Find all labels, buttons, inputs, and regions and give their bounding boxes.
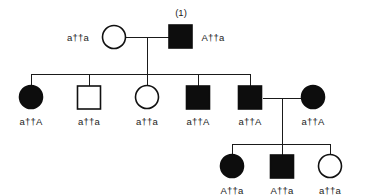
individual-II-1-circle-affected-female[interactable] xyxy=(20,86,43,109)
genotype-label-III-3: a††a xyxy=(319,186,341,196)
genotype-label-II-2: a††a xyxy=(78,117,100,127)
individual-II-6-circle-affected-female[interactable] xyxy=(302,86,325,109)
individual-II-5-square-affected-male[interactable] xyxy=(239,86,262,109)
individual-II-2-square-unaffected-male[interactable] xyxy=(78,86,101,109)
genotype-label-II-4: a††A xyxy=(187,117,210,127)
genotype-label-II-3: a††a xyxy=(136,117,158,127)
individual-II-3-circle-unaffected-female[interactable] xyxy=(136,86,159,109)
proband-id-label: (1) xyxy=(175,8,187,18)
individual-I-1-circle-unaffected-female[interactable] xyxy=(103,26,126,49)
genotype-label-I-1: a††a xyxy=(67,33,89,43)
genotype-label-III-1: A††a xyxy=(221,186,244,196)
individual-III-1-circle-affected-female[interactable] xyxy=(221,155,244,178)
pedigree-chart: (1) a††a A††a a††A a††a a††a a††A a††A a… xyxy=(0,0,366,196)
genotype-label-I-2: A††a xyxy=(202,33,225,43)
genotype-label-II-6: a††A xyxy=(302,117,325,127)
individual-III-2-square-affected-male[interactable] xyxy=(271,155,294,178)
individual-II-4-square-affected-male[interactable] xyxy=(187,86,210,109)
individual-I-2-square-affected-male[interactable] xyxy=(169,25,192,48)
genotype-label-II-5: a††A xyxy=(239,117,262,127)
individual-III-3-circle-unaffected-female[interactable] xyxy=(319,155,342,178)
pedigree-diagram-canvas xyxy=(0,0,366,196)
genotype-label-II-1: a††A xyxy=(20,117,43,127)
genotype-label-III-2: A††a xyxy=(271,186,294,196)
